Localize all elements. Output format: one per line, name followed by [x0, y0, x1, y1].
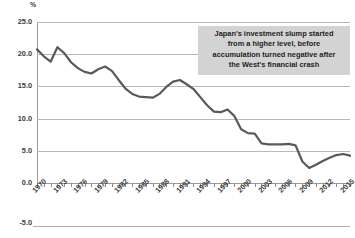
x-tickmark-2008	[295, 183, 296, 187]
cropped-caption	[2, 231, 302, 237]
y-axis-unit-label: %	[30, 1, 36, 9]
x-tickmark-1990	[173, 183, 174, 187]
y-axis-tick-label-10: 10.0	[6, 115, 32, 123]
annotation-line-2: from a higher level, before	[200, 39, 348, 49]
x-tickmark-2014	[336, 183, 337, 187]
x-tickmark-2005	[275, 183, 276, 187]
y-axis-tick-label-neg5: -5.0	[6, 219, 32, 227]
x-axis-tick-label-1970: 1970	[31, 178, 48, 195]
bottom-divider	[33, 226, 350, 227]
x-tickmark-1999	[234, 183, 235, 187]
chart-container: % 25.0 20.0 15.0 10.0 5.0 0.0 -5.0	[0, 0, 355, 238]
y-axis-tick-label-25: 25.0	[6, 18, 32, 26]
annotation-line-3: accumulation turned negative after	[200, 50, 348, 60]
annotation-line-1: Japan's investment slump started	[200, 29, 348, 39]
y-axis-tick-label-0: 0.0	[6, 179, 32, 187]
x-tickmark-2002	[255, 183, 256, 187]
annotation-callout: Japan's investment slump started from a …	[198, 26, 350, 75]
x-tickmark-1996	[214, 183, 215, 187]
annotation-line-4: the West's financial crash	[200, 60, 348, 70]
y-axis-tick-label-15: 15.0	[6, 82, 32, 90]
x-tickmark-2011	[316, 183, 317, 187]
y-axis-tick-label-5: 5.0	[6, 147, 32, 155]
x-tickmark-1984	[132, 183, 133, 187]
y-axis-tick-label-20: 20.0	[6, 50, 32, 58]
